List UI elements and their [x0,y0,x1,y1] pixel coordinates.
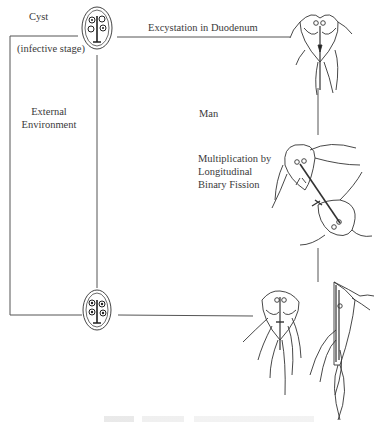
cyst-bottom-icon [83,290,111,330]
label-infective-stage: (infective stage) [17,42,85,55]
trophozoite-front-icon [243,291,301,395]
binary-fission-icon [272,144,372,245]
label-multiplication-line1: Multiplication by [198,152,271,165]
figure-caption-illegible [104,416,314,422]
label-multiplication-line2: Longitudinal [198,165,271,178]
trophozoite-side-icon [310,282,374,420]
label-external-environment: External Environment [18,105,80,131]
life-cycle-diagram [0,0,384,427]
label-multiplication: Multiplication by Longitudinal Binary Fi… [198,152,271,191]
connector-cyst-left [10,36,78,315]
trophozoite-excystation-icon [290,15,352,95]
label-external-line1: External [18,105,80,118]
connector-bottom-right [118,315,253,316]
label-excystation: Excystation in Duodenum [148,21,258,34]
cyst-top-icon [82,7,112,49]
label-cyst: Cyst [29,10,48,23]
label-external-line2: Environment [18,118,80,131]
label-man: Man [199,107,218,120]
label-multiplication-line3: Binary Fission [198,178,271,191]
